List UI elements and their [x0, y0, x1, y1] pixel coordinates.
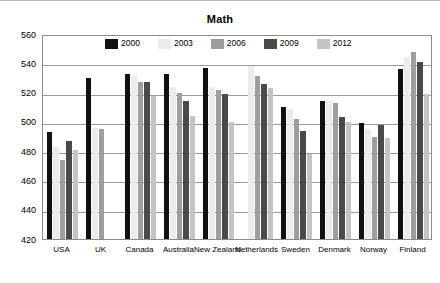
- bar: [307, 154, 313, 239]
- bar: [385, 138, 391, 239]
- legend-swatch-icon: [317, 39, 330, 49]
- bar: [183, 101, 189, 239]
- bar: [164, 74, 170, 239]
- bar: [144, 82, 150, 239]
- bar: [287, 109, 293, 239]
- top-divider: [0, 0, 440, 1]
- bar: [378, 125, 384, 239]
- legend-swatch-icon: [105, 39, 118, 49]
- bar: [216, 90, 222, 239]
- chart-title: Math: [0, 13, 440, 25]
- bar-group: [82, 36, 121, 239]
- bar-group: [394, 36, 433, 239]
- bar: [359, 123, 365, 239]
- legend-label: 2012: [333, 39, 352, 48]
- bar-group: [160, 36, 199, 239]
- legend-swatch-icon: [211, 39, 224, 49]
- bar-group: [121, 36, 160, 239]
- legend-label: 2003: [174, 39, 193, 48]
- bar: [255, 76, 261, 239]
- legend-item[interactable]: 2000: [105, 39, 140, 49]
- bar-group: [277, 36, 316, 239]
- bar: [229, 122, 235, 239]
- bar: [248, 66, 254, 239]
- plot-area: [42, 35, 432, 240]
- bar: [131, 75, 137, 239]
- bar: [177, 93, 183, 239]
- y-axis-tick-label: 440: [0, 206, 36, 215]
- bar: [209, 87, 215, 239]
- bar: [125, 74, 131, 239]
- legend-item[interactable]: 2009: [264, 39, 299, 49]
- bar: [60, 160, 66, 239]
- bar: [300, 131, 306, 239]
- legend-swatch-icon: [158, 39, 171, 49]
- bar: [333, 103, 339, 239]
- legend-label: 2006: [227, 39, 246, 48]
- y-axis-tick-label: 560: [0, 31, 36, 40]
- bar: [86, 78, 92, 239]
- bar-group: [238, 36, 277, 239]
- bar: [281, 107, 287, 239]
- legend-label: 2000: [121, 39, 140, 48]
- bar: [138, 82, 144, 239]
- bar: [47, 132, 53, 239]
- bar: [268, 88, 274, 239]
- bar: [411, 52, 417, 239]
- y-axis-tick-label: 500: [0, 118, 36, 127]
- x-axis-tick-label: Finland: [387, 245, 438, 255]
- bar: [326, 101, 332, 239]
- bar: [404, 57, 410, 239]
- legend-label: 2009: [280, 39, 299, 48]
- bar-group: [355, 36, 394, 239]
- math-bar-chart: Math 20002003200620092012 42044046048050…: [0, 0, 440, 283]
- bar: [372, 137, 378, 240]
- bar: [222, 94, 228, 239]
- bar: [424, 94, 430, 239]
- y-axis-tick-label: 480: [0, 148, 36, 157]
- bar: [339, 117, 345, 239]
- chart-legend: 20002003200620092012: [105, 38, 366, 49]
- y-axis-tick-label: 460: [0, 177, 36, 186]
- bar: [92, 128, 98, 239]
- bar: [53, 147, 59, 239]
- legend-item[interactable]: 2003: [158, 39, 193, 49]
- y-axis-tick-label: 520: [0, 89, 36, 98]
- bar: [151, 96, 157, 240]
- bar: [73, 150, 79, 239]
- legend-item[interactable]: 2012: [317, 39, 352, 49]
- bar: [320, 101, 326, 239]
- legend-swatch-icon: [264, 39, 277, 49]
- bar: [99, 129, 105, 239]
- bar: [365, 129, 371, 239]
- bar: [346, 122, 352, 239]
- y-axis-tick-label: 420: [0, 236, 36, 245]
- bar: [170, 87, 176, 239]
- y-axis-tick-label: 540: [0, 60, 36, 69]
- bar: [203, 68, 209, 239]
- bar-group: [43, 36, 82, 239]
- bar: [294, 119, 300, 239]
- bar-group: [316, 36, 355, 239]
- bar-group: [199, 36, 238, 239]
- bar: [398, 69, 404, 239]
- bar: [417, 62, 423, 239]
- bar: [190, 116, 196, 239]
- legend-item[interactable]: 2006: [211, 39, 246, 49]
- bar: [66, 141, 72, 239]
- bar: [261, 84, 267, 239]
